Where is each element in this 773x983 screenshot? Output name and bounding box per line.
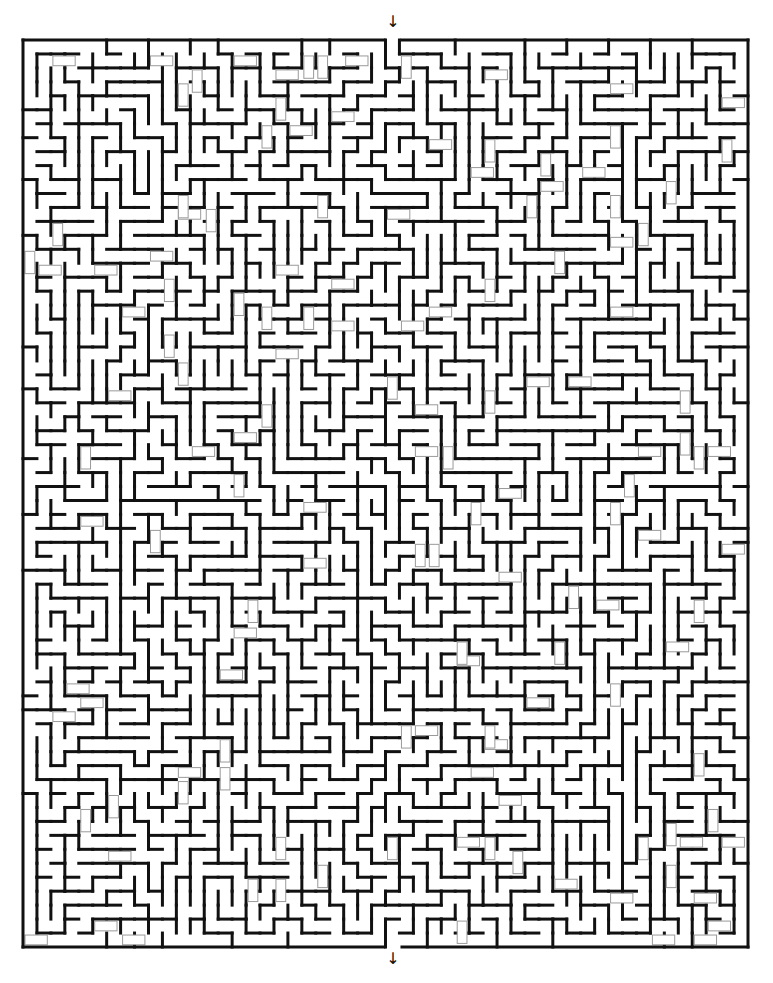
exit-arrow-icon: ↓ [383,951,403,967]
maze-board[interactable] [0,0,773,983]
